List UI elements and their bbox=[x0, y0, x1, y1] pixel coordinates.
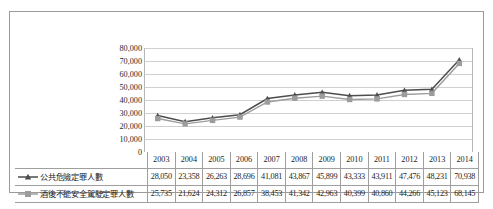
table-cell-value: 21,624 bbox=[175, 186, 203, 203]
data-point-marker bbox=[237, 114, 242, 119]
legend-triangle-marker-icon bbox=[17, 172, 39, 182]
y-tick-label: 80,000 bbox=[119, 44, 142, 53]
table-column-header: 2009 bbox=[313, 152, 341, 169]
table-cell-value: 45,123 bbox=[423, 186, 451, 203]
table-column-header: 2013 bbox=[423, 152, 451, 169]
legend-item-1[interactable]: 公共危險定罪人數 bbox=[15, 169, 148, 186]
y-tick-label: 30,000 bbox=[119, 109, 142, 118]
series-line bbox=[158, 60, 460, 122]
table-cell-value: 28,696 bbox=[230, 169, 258, 186]
data-point-marker bbox=[210, 118, 215, 123]
table-cell-value: 45,899 bbox=[313, 169, 341, 186]
table-column-header: 2007 bbox=[258, 152, 286, 169]
table-header-row: 2003200420052006200720082009201020112012… bbox=[15, 152, 479, 169]
data-point-marker bbox=[374, 96, 379, 101]
table-corner-cell bbox=[15, 152, 148, 169]
chart-container: 80,00070,00060,00050,00040,00030,00020,0… bbox=[9, 11, 484, 193]
table-column-header: 2014 bbox=[451, 152, 479, 169]
table-column-header: 2003 bbox=[148, 152, 176, 169]
table-cell-value: 43,867 bbox=[285, 169, 313, 186]
table-cell-value: 26,263 bbox=[203, 169, 231, 186]
table-cell-value: 24,312 bbox=[203, 186, 231, 203]
table-cell-value: 26,857 bbox=[230, 186, 258, 203]
data-point-marker bbox=[429, 91, 434, 96]
data-point-marker bbox=[292, 96, 297, 101]
table-column-header: 2010 bbox=[341, 152, 369, 169]
table-column-header: 2008 bbox=[285, 152, 313, 169]
y-tick-label: 60,000 bbox=[119, 70, 142, 79]
table-cell-value: 48,231 bbox=[423, 169, 451, 186]
data-point-marker bbox=[320, 93, 325, 98]
table-cell-value: 28,050 bbox=[148, 169, 176, 186]
table-cell-value: 44,266 bbox=[396, 186, 424, 203]
table-cell-value: 68,145 bbox=[451, 186, 479, 203]
table-cell-value: 42,963 bbox=[313, 186, 341, 203]
legend-square-marker-icon bbox=[17, 189, 39, 199]
y-axis: 80,00070,00060,00050,00040,00030,00020,0… bbox=[106, 42, 142, 158]
legend-item-2[interactable]: 酒後不能安全駕駛定罪人數 bbox=[15, 186, 148, 203]
series-label: 酒後不能安全駕駛定罪人數 bbox=[40, 189, 134, 199]
data-point-marker bbox=[155, 116, 160, 121]
table-cell-value: 23,358 bbox=[175, 169, 203, 186]
line-chart-svg bbox=[144, 48, 473, 152]
data-table-body: 2003200420052006200720082009201020112012… bbox=[15, 152, 479, 203]
table-column-header: 2005 bbox=[203, 152, 231, 169]
table-column-header: 2006 bbox=[230, 152, 258, 169]
plot-area bbox=[144, 48, 473, 152]
y-tick-label: 70,000 bbox=[119, 57, 142, 66]
table-cell-value: 43,333 bbox=[341, 169, 369, 186]
table-row: 酒後不能安全駕駛定罪人數25,73521,62424,31226,85738,4… bbox=[15, 186, 479, 203]
table-cell-value: 40,860 bbox=[368, 186, 396, 203]
y-tick-label: 50,000 bbox=[119, 83, 142, 92]
data-point-marker bbox=[457, 61, 462, 66]
table-cell-value: 38,453 bbox=[258, 186, 286, 203]
table-cell-value: 40,399 bbox=[341, 186, 369, 203]
table-column-header: 2012 bbox=[396, 152, 424, 169]
y-tick-label: 40,000 bbox=[119, 96, 142, 105]
data-point-marker bbox=[347, 97, 352, 102]
table-column-header: 2004 bbox=[175, 152, 203, 169]
data-point-marker bbox=[402, 92, 407, 97]
data-point-marker bbox=[182, 121, 187, 126]
data-point-marker bbox=[265, 99, 270, 104]
table-cell-value: 41,342 bbox=[285, 186, 313, 203]
y-tick-label: 10,000 bbox=[119, 135, 142, 144]
series-label: 公共危險定罪人數 bbox=[40, 172, 102, 182]
table-cell-value: 43,911 bbox=[368, 169, 396, 186]
table-row: 公共危險定罪人數28,05023,35826,26328,69641,08143… bbox=[15, 169, 479, 186]
y-tick-label: 20,000 bbox=[119, 122, 142, 131]
table-column-header: 2011 bbox=[368, 152, 396, 169]
table-cell-value: 47,476 bbox=[396, 169, 424, 186]
table-cell-value: 41,081 bbox=[258, 169, 286, 186]
table-cell-value: 70,938 bbox=[451, 169, 479, 186]
data-table: 2003200420052006200720082009201020112012… bbox=[15, 152, 479, 203]
table-cell-value: 25,735 bbox=[148, 186, 176, 203]
